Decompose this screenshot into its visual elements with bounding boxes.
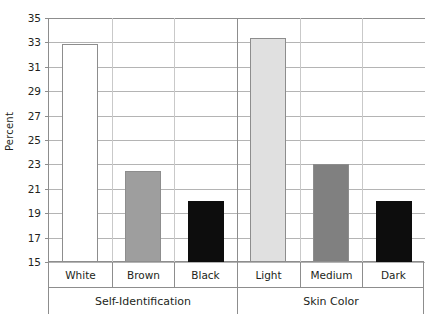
- cell-separator-5: [362, 18, 363, 262]
- y-tick-label-35: 35: [28, 12, 41, 24]
- y-tick-label-15: 15: [28, 256, 41, 268]
- y-tick-label-17: 17: [28, 232, 41, 244]
- cell-separator-4: [300, 18, 301, 262]
- y-tick-label-19: 19: [28, 207, 41, 219]
- plot-area: [48, 18, 424, 262]
- category-label-brown: Brown: [112, 262, 175, 287]
- bar-black: [188, 201, 224, 262]
- category-divider-3: [237, 262, 238, 287]
- cell-separator-1: [112, 18, 113, 262]
- bar-dark: [376, 201, 412, 262]
- y-tick-label-21: 21: [28, 183, 41, 195]
- group-separator: [237, 18, 238, 262]
- y-tick-label-27: 27: [28, 110, 41, 122]
- category-label-white: White: [49, 262, 112, 287]
- category-divider-2: [174, 262, 175, 287]
- category-label-medium: Medium: [300, 262, 363, 287]
- y-tick-label-33: 33: [28, 36, 41, 48]
- group-label-divider: [237, 288, 238, 314]
- category-label-light: Light: [237, 262, 300, 287]
- bar-chart: Percent 3533312927252321191715 WhiteBrow…: [0, 0, 443, 316]
- y-tick-label-29: 29: [28, 85, 41, 97]
- category-label-black: Black: [174, 262, 237, 287]
- bar-light: [250, 38, 286, 262]
- y-axis-title: Percent: [0, 0, 20, 262]
- group-label-skin-color: Skin Color: [237, 288, 425, 314]
- y-axis-title-label: Percent: [5, 111, 16, 150]
- y-tick-label-23: 23: [28, 158, 41, 170]
- bar-medium: [313, 164, 349, 262]
- y-tick-label-25: 25: [28, 134, 41, 146]
- y-tick-label-31: 31: [28, 61, 41, 73]
- y-axis-tick-labels: 3533312927252321191715: [20, 0, 44, 262]
- category-label-row: WhiteBrownBlackLightMediumDark: [48, 262, 424, 288]
- group-label-self-identification: Self-Identification: [49, 288, 237, 314]
- category-divider-4: [300, 262, 301, 287]
- bar-brown: [125, 171, 161, 263]
- category-label-dark: Dark: [362, 262, 425, 287]
- cell-separator-2: [174, 18, 175, 262]
- bar-white: [62, 44, 98, 262]
- category-divider-1: [112, 262, 113, 287]
- category-divider-5: [362, 262, 363, 287]
- bars-layer: [49, 18, 425, 262]
- group-label-row: Self-IdentificationSkin Color: [48, 288, 424, 314]
